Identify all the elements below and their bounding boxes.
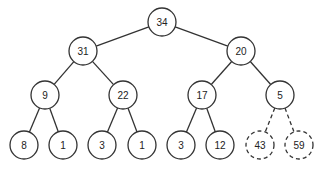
node-label: 8 [21, 140, 27, 151]
tree-edge [175, 27, 228, 46]
tree-node: 43 [246, 131, 274, 159]
node-label: 12 [214, 140, 226, 151]
tree-node: 8 [10, 131, 38, 159]
node-label: 34 [156, 17, 168, 28]
tree-node: 9 [31, 81, 59, 109]
tree-edge [92, 61, 113, 84]
node-label: 59 [293, 140, 305, 151]
tree-node: 59 [285, 131, 313, 159]
node-label: 43 [254, 140, 266, 151]
tree-node: 1 [49, 131, 77, 159]
tree-edge [186, 108, 196, 132]
node-label: 9 [42, 90, 48, 101]
node-label: 31 [77, 46, 89, 57]
node-label: 20 [235, 46, 247, 57]
tree-node: 22 [109, 81, 137, 109]
tree-edge [211, 61, 231, 84]
node-label: 17 [196, 90, 208, 101]
node-label: 1 [60, 140, 66, 151]
tree-node: 31 [69, 37, 97, 65]
tree-node: 34 [148, 8, 176, 36]
node-label: 1 [139, 140, 145, 151]
tree-edge [50, 108, 59, 132]
tree-edge [96, 27, 149, 46]
node-label: 3 [178, 140, 184, 151]
tree-edge [29, 108, 39, 132]
tree-node: 17 [188, 81, 216, 109]
tree-edge [207, 108, 216, 132]
node-label: 3 [99, 140, 105, 151]
tree-node: 1 [128, 131, 156, 159]
binary-tree-diagram: 34312092217581313124359 [0, 0, 321, 169]
tree-edges [29, 27, 294, 132]
tree-node: 3 [167, 131, 195, 159]
tree-edge [107, 108, 117, 132]
tree-edge [54, 62, 74, 85]
tree-node: 20 [227, 37, 255, 65]
tree-edge [285, 108, 294, 132]
tree-node: 5 [266, 81, 294, 109]
tree-node: 3 [88, 131, 116, 159]
node-label: 5 [277, 90, 283, 101]
tree-edge [265, 108, 275, 132]
tree-edge [128, 108, 137, 132]
tree-node: 12 [206, 131, 234, 159]
node-label: 22 [117, 90, 129, 101]
tree-edge [250, 61, 270, 84]
